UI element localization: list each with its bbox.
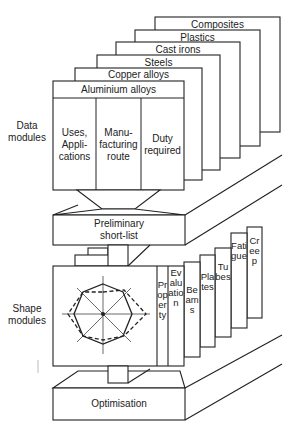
copper-alloys-label: Copper alloys: [75, 69, 202, 81]
manufacturing-route-label: Manu- facturing route: [96, 127, 141, 163]
cast-irons-label: Cast irons: [116, 44, 240, 56]
shape-modules-label: Shape modules: [2, 303, 52, 327]
optimisation-label: Optimisation: [53, 398, 185, 410]
plates-label: Plates: [200, 272, 215, 292]
evaluation-label: Evaluation: [168, 268, 184, 308]
tubes-label: Tubes: [215, 262, 231, 282]
aluminium-alloys-label: Aluminium alloys: [53, 84, 184, 96]
data-modules-label: Data modules: [2, 120, 52, 144]
steels-label: Steels: [97, 57, 220, 69]
preliminary-shortlist-label: Preliminary short-list: [53, 218, 185, 242]
card-plates: [200, 255, 215, 347]
composites-label: Composites: [155, 19, 280, 31]
fatigue-label: Fatigue: [231, 241, 247, 261]
beams-label: Beams: [184, 285, 200, 315]
property-label: Property: [157, 280, 168, 320]
creep-label: Creep: [247, 236, 262, 266]
duty-required-label: Duty required: [141, 133, 184, 157]
plastics-label: Plastics: [135, 32, 260, 44]
uses-applications-label: Uses, Appli- cations: [53, 127, 96, 163]
